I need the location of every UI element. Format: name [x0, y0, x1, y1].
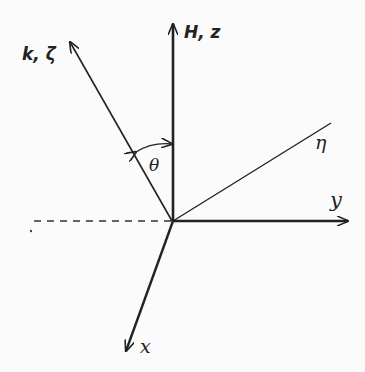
eta-axis: [173, 123, 331, 221]
k-axis: [70, 42, 172, 221]
x-axis: [126, 221, 173, 351]
z-axis-label: H, z: [184, 24, 221, 41]
y-axis-label: y: [330, 190, 342, 211]
eta-axis-label: η: [315, 133, 326, 152]
k-axis-label: k, ζ: [22, 46, 56, 63]
diagram: H, z k, ζ η y x θ: [0, 0, 365, 372]
theta-arc: [136, 144, 172, 152]
x-axis-label: x: [140, 337, 151, 356]
theta-label: θ: [149, 157, 159, 174]
